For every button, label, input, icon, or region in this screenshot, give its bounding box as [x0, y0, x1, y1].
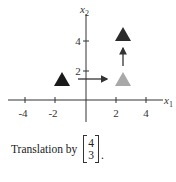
- translation-diagram: -4 -2 2 4 2 4 x2 x1: [0, 0, 176, 130]
- translation-vector: 4 3: [83, 137, 99, 161]
- x-tick-label: 4: [143, 107, 149, 119]
- caption-text: Translation by: [11, 143, 77, 155]
- x2-axis-label: x2: [79, 3, 89, 18]
- y-tick-label: 4: [75, 35, 81, 47]
- x-tick-label: -4: [18, 107, 28, 119]
- x-tick-label: -2: [48, 107, 57, 119]
- x-tick-label: 2: [113, 107, 119, 119]
- caption-period: .: [101, 149, 104, 161]
- x1-axis-label: x1: [163, 94, 173, 109]
- y-tick-label: 2: [75, 65, 81, 77]
- vector-component-x: 4: [88, 137, 94, 149]
- translated-triangle: [115, 27, 131, 41]
- vector-component-y: 3: [88, 149, 94, 161]
- intermediate-triangle: [115, 72, 131, 86]
- original-triangle: [54, 72, 70, 86]
- caption: Translation by 4 3 .: [11, 137, 104, 161]
